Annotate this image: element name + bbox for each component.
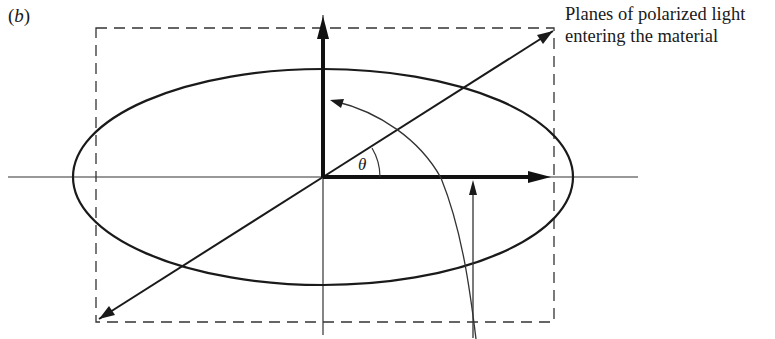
rotation-curve-arrow — [334, 101, 476, 339]
rotation-arrowhead — [330, 99, 344, 108]
diagram-canvas — [0, 0, 775, 339]
pointer-arrowhead — [469, 180, 477, 195]
horizontal-arrowhead — [528, 171, 551, 183]
arrowhead-lower-left — [99, 306, 115, 319]
arrowhead-upper-right — [537, 31, 553, 44]
diagonal-polarization-arrow — [323, 31, 553, 177]
angle-theta-arc — [372, 148, 380, 177]
